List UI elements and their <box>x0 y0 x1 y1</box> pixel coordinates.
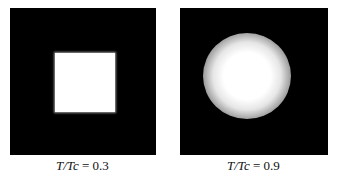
panel-high-temperature <box>180 8 328 155</box>
caption-var-tc: Tc <box>238 158 250 173</box>
caption-var-tc: Tc <box>67 158 79 173</box>
caption-right: T/Tc = 0.9 <box>227 158 280 174</box>
caption-left: T/Tc = 0.3 <box>56 158 109 174</box>
blurred-circle-feature <box>203 33 291 119</box>
caption-var: T/ <box>56 158 67 173</box>
panel-low-temperature <box>10 8 156 155</box>
caption-value: = 0.9 <box>250 158 280 173</box>
caption-value: = 0.3 <box>79 158 109 173</box>
white-square-feature <box>55 53 115 112</box>
caption-var: T/ <box>227 158 238 173</box>
